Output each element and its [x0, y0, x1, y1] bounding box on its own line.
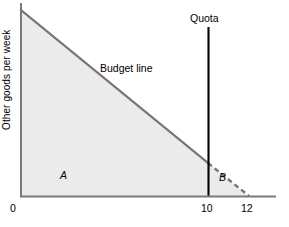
- x-tick-label-12: 12: [241, 203, 253, 214]
- region-a-shading: [21, 10, 208, 196]
- budget-line-label: Budget line: [100, 63, 153, 74]
- plot-canvas: [0, 0, 289, 227]
- region-b-label: B: [219, 172, 226, 183]
- x-tick-label-10: 10: [201, 203, 213, 214]
- quota-label: Quota: [190, 13, 219, 24]
- budget-line-quota-figure: Other goods per week Budget line Quota A…: [0, 0, 289, 227]
- origin-label: 0: [10, 203, 16, 214]
- y-axis-title: Other goods per week: [2, 30, 12, 130]
- region-a-label: A: [60, 170, 67, 181]
